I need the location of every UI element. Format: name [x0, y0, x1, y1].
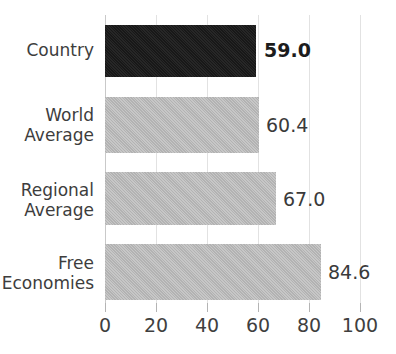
category-label-world-average: World Average — [0, 105, 94, 145]
category-label-free-economies: Free Economies — [0, 253, 94, 293]
x-tick-label-100: 100 — [330, 314, 390, 336]
category-label-country: Country — [0, 40, 94, 60]
x-tick-100 — [360, 303, 361, 312]
x-tick-80 — [309, 303, 310, 312]
bar-row — [105, 25, 396, 77]
bar-row — [105, 172, 396, 225]
bar-regional-average — [105, 172, 276, 225]
bar-chart: 59.0 60.4 67.0 84.6 Country World Averag… — [0, 0, 396, 354]
x-tick-60 — [258, 303, 259, 312]
bar-series — [105, 15, 396, 303]
category-label-regional-average: Regional Average — [0, 180, 94, 220]
x-tick-20 — [156, 303, 157, 312]
x-tick-40 — [207, 303, 208, 312]
bar-country — [105, 25, 256, 77]
value-label-world-average: 60.4 — [266, 116, 308, 135]
value-label-free-economies: 84.6 — [328, 263, 370, 282]
value-label-regional-average: 67.0 — [283, 190, 325, 209]
bar-free-economies — [105, 244, 321, 300]
value-label-country: 59.0 — [264, 41, 311, 60]
bar-world-average — [105, 97, 259, 153]
bar-row — [105, 97, 396, 153]
x-tick-0 — [105, 303, 106, 312]
